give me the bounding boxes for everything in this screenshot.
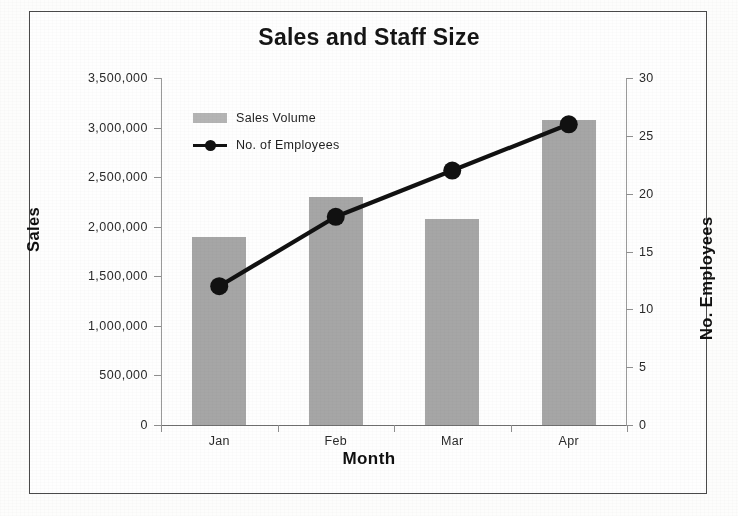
line-marker: [210, 277, 228, 295]
line-marker: [327, 208, 345, 226]
y-axis-left-tick: [154, 326, 161, 327]
y-axis-left-tick: [154, 425, 161, 426]
y-axis-left-tick-label: 500,000: [99, 368, 148, 382]
x-axis-tick-label: Mar: [441, 434, 463, 448]
line-marker: [560, 115, 578, 133]
x-axis-title: Month: [0, 449, 738, 469]
chart-title: Sales and Staff Size: [0, 24, 738, 51]
y-axis-left-tick-label: 3,500,000: [88, 71, 148, 85]
x-axis-tick: [278, 425, 279, 432]
y-axis-left-tick: [154, 78, 161, 79]
y-axis-right-tick-label: 15: [639, 245, 654, 259]
y-axis-right-tick-label: 0: [639, 418, 646, 432]
y-axis-left-tick-label: 1,500,000: [88, 269, 148, 283]
y-axis-right-tick: [626, 78, 633, 79]
legend-item-label: Sales Volume: [236, 111, 316, 125]
y-axis-right-tick-label: 20: [639, 187, 654, 201]
plot-area: 0500,0001,000,0001,500,0002,000,0002,500…: [161, 78, 627, 425]
legend-item-label: No. of Employees: [236, 138, 339, 152]
y-axis-right-tick-label: 10: [639, 302, 654, 316]
y-axis-left-tick-label: 0: [141, 418, 148, 432]
line-marker: [443, 162, 461, 180]
x-axis-tick: [161, 425, 162, 432]
y-axis-left-tick: [154, 375, 161, 376]
y-axis-right-tick: [626, 194, 633, 195]
x-axis-tick: [511, 425, 512, 432]
x-axis-tick: [627, 425, 628, 432]
y-axis-left-tick-label: 2,000,000: [88, 220, 148, 234]
y-axis-right-tick-label: 30: [639, 71, 654, 85]
y-axis-left-tick: [154, 177, 161, 178]
y-axis-left-tick: [154, 276, 161, 277]
y-axis-right-tick: [626, 367, 633, 368]
y-axis-right-tick-label: 25: [639, 129, 654, 143]
y-axis-left-tick: [154, 128, 161, 129]
x-axis-tick-label: Feb: [325, 434, 347, 448]
chart-legend: Sales Volume No. of Employees: [193, 104, 339, 158]
y-axis-left-tick-label: 3,000,000: [88, 121, 148, 135]
y-axis-right-tick-label: 5: [639, 360, 646, 374]
y-axis-left-tick: [154, 227, 161, 228]
chart-page: Sales and Staff Size Sales No. Employees…: [0, 0, 738, 516]
y-axis-right-tick: [626, 252, 633, 253]
legend-item-sales-volume: Sales Volume: [193, 104, 339, 131]
y-axis-title-left: Sales: [24, 207, 43, 252]
x-axis-tick-label: Jan: [209, 434, 230, 448]
y-axis-right-tick: [626, 309, 633, 310]
legend-bar-swatch-icon: [193, 113, 227, 123]
y-axis-left-tick-label: 2,500,000: [88, 170, 148, 184]
x-axis-tick-label: Apr: [559, 434, 579, 448]
legend-item-no-of-employees: No. of Employees: [193, 131, 339, 158]
x-axis-tick: [394, 425, 395, 432]
y-axis-right-tick: [626, 136, 633, 137]
legend-line-swatch-icon: [193, 138, 227, 152]
y-axis-left-tick-label: 1,000,000: [88, 319, 148, 333]
y-axis-title-right: No. Employees: [697, 217, 716, 341]
